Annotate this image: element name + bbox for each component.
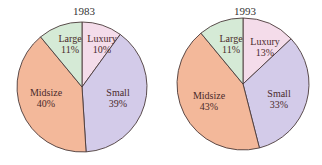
- slice-label-large: Large 11%: [219, 33, 242, 55]
- slice-label-luxury: Luxury 10%: [87, 33, 116, 55]
- pie-chart-1983: 1983 Luxury 10% Small 39% Midsize 40% La…: [0, 0, 161, 165]
- slice-name: Small: [106, 87, 129, 98]
- slice-name: Midsize: [193, 90, 225, 101]
- slice-pct: 13%: [256, 47, 274, 58]
- slice-pct: 40%: [37, 98, 55, 109]
- slice-name: Midsize: [30, 87, 62, 98]
- slice-name: Large: [219, 33, 242, 44]
- slice-label-midsize: Midsize 43%: [193, 90, 225, 112]
- slice-pct: 10%: [93, 44, 111, 55]
- slice-label-small: Small 33%: [267, 88, 290, 110]
- slice-name: Luxury: [250, 36, 279, 47]
- slice-name: Small: [267, 88, 290, 99]
- pie-1993-svg: [161, 0, 322, 165]
- slice-label-small: Small 39%: [106, 87, 129, 109]
- slice-pct: 11%: [222, 44, 240, 55]
- slice-label-luxury: Luxury 13%: [250, 36, 279, 58]
- slice-name: Large: [58, 33, 81, 44]
- slice-pct: 33%: [270, 99, 288, 110]
- slice-name: Luxury: [87, 33, 116, 44]
- slice-label-large: Large 11%: [58, 33, 81, 55]
- slice-pct: 43%: [200, 101, 218, 112]
- slice-label-midsize: Midsize 40%: [30, 87, 62, 109]
- slice-pct: 39%: [109, 98, 127, 109]
- pie-1983-svg: [0, 0, 161, 165]
- slice-pct: 11%: [61, 44, 79, 55]
- pie-chart-1993: 1993 Luxury 13% Small 33% Midsize 43% La…: [161, 0, 322, 165]
